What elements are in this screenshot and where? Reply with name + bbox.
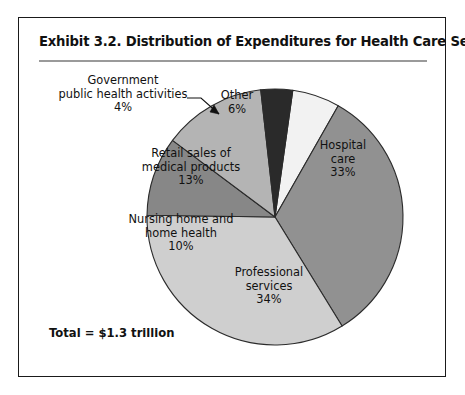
pie-chart bbox=[19, 18, 447, 378]
slice-label-other: Other 6% bbox=[205, 89, 269, 116]
exhibit-figure-frame: Exhibit 3.2. Distribution of Expenditure… bbox=[18, 17, 446, 377]
slice-label-hospital-care: Hospital care 33% bbox=[307, 139, 379, 180]
total-note: Total = $1.3 trillion bbox=[49, 326, 174, 340]
slice-label-government: Government public health activities 4% bbox=[43, 74, 203, 115]
slice-label-professional-services: Professional services 34% bbox=[219, 266, 319, 307]
slice-label-nursing-home: Nursing home and home health 10% bbox=[125, 213, 237, 254]
title-divider bbox=[39, 60, 427, 62]
slice-label-retail-sales: Retail sales of medical products 13% bbox=[135, 147, 247, 188]
page-title: Exhibit 3.2. Distribution of Expenditure… bbox=[39, 34, 429, 49]
